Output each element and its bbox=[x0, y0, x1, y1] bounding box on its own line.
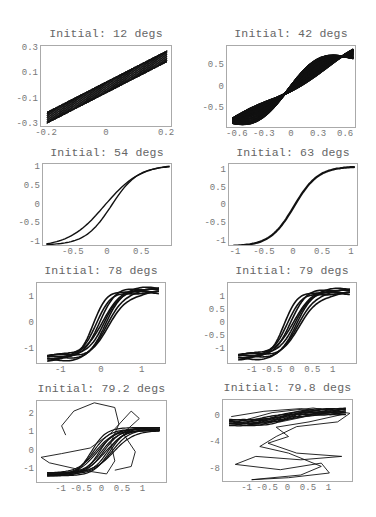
x-tick-label: 0 bbox=[289, 365, 294, 375]
plot-area bbox=[227, 282, 357, 364]
x-tick-label: -0.5 bbox=[261, 365, 283, 375]
y-tick-label: 0 bbox=[186, 82, 224, 92]
x-tick-label: 0.5 bbox=[114, 484, 130, 494]
y-tick-label: 1 bbox=[188, 165, 226, 175]
plot-curves bbox=[41, 46, 172, 127]
x-tick-label: -1 bbox=[55, 365, 66, 375]
x-tick-label: 1 bbox=[140, 484, 145, 494]
panel-title: Initial: 79.8 degs bbox=[218, 381, 358, 394]
plot-area bbox=[226, 45, 356, 128]
panel-title: Initial: 78 degs bbox=[31, 264, 171, 277]
y-tick-label: 0.1 bbox=[0, 68, 38, 78]
y-tick-label: 1 bbox=[0, 292, 34, 302]
x-tick-label: 0.5 bbox=[304, 365, 320, 375]
y-tick-label: 1 bbox=[2, 162, 40, 172]
y-tick-label: 1 bbox=[0, 427, 34, 437]
panel-title: Initial: 54 degs bbox=[37, 146, 177, 159]
plot-curves bbox=[229, 164, 358, 246]
panel-title: Initial: 12 degs bbox=[36, 27, 176, 40]
plot-area bbox=[42, 163, 172, 246]
y-tick-label: 1 bbox=[187, 292, 225, 302]
y-tick-label: 2 bbox=[0, 409, 34, 419]
x-tick-label: 1 bbox=[326, 483, 331, 493]
y-tick-label: 0 bbox=[182, 411, 220, 421]
y-tick-label: -0.5 bbox=[186, 103, 224, 113]
plot-curves bbox=[227, 46, 356, 128]
plot-area bbox=[36, 400, 167, 483]
x-tick-label: -1 bbox=[230, 247, 241, 257]
y-tick-label: 0.5 bbox=[187, 305, 225, 315]
x-tick-label: 0 bbox=[98, 365, 103, 375]
x-tick-label: -1 bbox=[55, 484, 66, 494]
y-tick-label: -0.5 bbox=[188, 218, 226, 228]
x-tick-label: -0.5 bbox=[256, 483, 278, 493]
plot-area bbox=[36, 282, 166, 364]
y-tick-label: -1 bbox=[0, 344, 34, 354]
y-tick-label: 0 bbox=[187, 318, 225, 328]
plot-curves bbox=[43, 164, 172, 246]
x-tick-label: 0 bbox=[103, 128, 108, 138]
y-tick-label: -8 bbox=[182, 464, 220, 474]
y-tick-label: -0.3 bbox=[0, 119, 38, 129]
plot-curves bbox=[37, 283, 166, 364]
y-tick-label: 0.5 bbox=[2, 181, 40, 191]
x-tick-label: 1 bbox=[330, 365, 335, 375]
y-tick-label: 0 bbox=[188, 200, 226, 210]
y-tick-label: 0 bbox=[0, 446, 34, 456]
x-tick-label: -0.6 bbox=[226, 129, 248, 139]
panel-title: Initial: 79 degs bbox=[222, 264, 362, 277]
y-tick-label: -1 bbox=[2, 237, 40, 247]
x-tick-label: -0.2 bbox=[35, 128, 57, 138]
panel-title: Initial: 42 degs bbox=[221, 27, 361, 40]
x-tick-label: 0.6 bbox=[337, 129, 353, 139]
x-tick-label: 0 bbox=[290, 247, 295, 257]
y-tick-label: -0.5 bbox=[2, 218, 40, 228]
y-tick-label: 0 bbox=[0, 318, 34, 328]
plot-curves bbox=[37, 401, 167, 483]
panel-title: Initial: 79.2 degs bbox=[32, 382, 172, 395]
y-tick-label: 0 bbox=[2, 200, 40, 210]
x-tick-label: 1 bbox=[348, 247, 353, 257]
plot-area bbox=[228, 163, 358, 246]
x-tick-label: 0 bbox=[99, 484, 104, 494]
x-tick-label: -0.5 bbox=[253, 247, 275, 257]
x-tick-label: 0 bbox=[288, 129, 293, 139]
y-tick-label: -0.1 bbox=[0, 94, 38, 104]
y-tick-label: 0.5 bbox=[188, 183, 226, 193]
x-tick-label: 0 bbox=[104, 247, 109, 257]
plot-curves bbox=[228, 283, 357, 364]
x-tick-label: -0.3 bbox=[253, 129, 275, 139]
plot-curves bbox=[223, 400, 353, 482]
x-tick-label: 0 bbox=[285, 483, 290, 493]
y-tick-label: -1 bbox=[0, 464, 34, 474]
x-tick-label: 0.5 bbox=[133, 247, 149, 257]
x-tick-label: 1 bbox=[139, 365, 144, 375]
x-tick-label: 0.3 bbox=[310, 129, 326, 139]
y-tick-label: 0.3 bbox=[0, 43, 38, 53]
y-tick-label: -1 bbox=[187, 344, 225, 354]
y-tick-label: -1 bbox=[188, 236, 226, 246]
y-tick-label: -0.5 bbox=[187, 331, 225, 341]
plot-area bbox=[222, 399, 353, 482]
x-tick-label: 0.5 bbox=[314, 247, 330, 257]
panel-title: Initial: 63 degs bbox=[223, 146, 363, 159]
x-tick-label: -0.5 bbox=[70, 484, 92, 494]
x-tick-label: -1 bbox=[241, 483, 252, 493]
plot-area bbox=[40, 45, 172, 127]
x-tick-label: -1 bbox=[246, 365, 257, 375]
x-tick-label: 0.5 bbox=[300, 483, 316, 493]
y-tick-label: -4 bbox=[182, 437, 220, 447]
x-tick-label: -0.5 bbox=[62, 247, 84, 257]
y-tick-label: 0.5 bbox=[186, 60, 224, 70]
x-tick-label: 0.2 bbox=[158, 128, 174, 138]
